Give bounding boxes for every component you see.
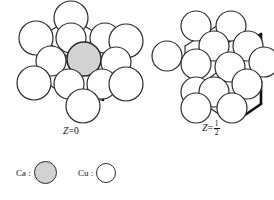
caption-z0-value: 0: [74, 126, 79, 136]
caption-z0: Z=0: [8, 126, 134, 136]
figure-root: Z=0 Z=12 Ca : Cu :: [0, 0, 274, 200]
cu-atom-circle: [152, 41, 182, 71]
fraction-numerator: 1: [214, 120, 220, 128]
panel-z0: [8, 4, 134, 124]
legend: Ca : Cu :: [14, 158, 194, 192]
legend-entry-ca: Ca :: [16, 161, 57, 184]
cu-atom-circle: [181, 93, 211, 123]
cu-atom-circle: [17, 66, 51, 100]
fraction-denominator: 2: [214, 129, 220, 137]
legend-label-cu: Cu :: [78, 168, 93, 178]
legend-entry-cu: Cu :: [78, 163, 116, 183]
crystal-layer-zhalf-svg: [150, 4, 272, 124]
panel-zhalf: [150, 4, 272, 124]
cu-atom-circle: [66, 89, 100, 123]
cu-atom-circle: [109, 67, 143, 101]
caption-zhalf: Z=12: [150, 120, 272, 137]
cu-atom-swatch-icon: [96, 163, 116, 183]
caption-zhalf-equals: =: [208, 123, 214, 133]
crystal-layer-z0-svg: [8, 4, 134, 124]
legend-label-ca: Ca :: [16, 168, 31, 178]
caption-zhalf-fraction: 12: [214, 120, 220, 137]
cu-atom-circle: [181, 49, 211, 79]
cu-atom-circle: [217, 93, 247, 123]
ca-atom-swatch-icon: [34, 161, 57, 184]
atom-layer: [17, 1, 143, 123]
